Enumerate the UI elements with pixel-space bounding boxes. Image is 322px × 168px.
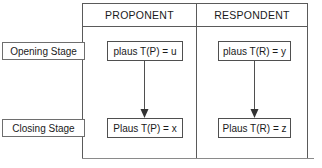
row-label-closing-stage: Closing Stage — [2, 119, 85, 137]
arrow-down-icon-proponent — [139, 61, 150, 119]
proposition-box-opening-proponent: plaus T(P) = u — [107, 41, 183, 61]
proposition-box-opening-respondent: plaus T(R) = y — [218, 41, 291, 61]
row-label-opening-stage: Opening Stage — [2, 42, 85, 60]
plausibility-stage-diagram: PROPONENT RESPONDENT Opening Stage Closi… — [0, 0, 322, 168]
column-header-respondent: RESPONDENT — [197, 8, 307, 23]
column-divider-rule — [196, 4, 197, 158]
arrow-down-icon-respondent — [249, 61, 260, 119]
proposition-box-closing-respondent: Plaus T(R) = z — [218, 118, 291, 138]
proposition-box-closing-proponent: Plaus T(P) = x — [107, 118, 183, 138]
baseline-rule — [82, 158, 314, 159]
column-header-proponent: PROPONENT — [83, 8, 196, 23]
header-divider-rule — [83, 26, 307, 27]
